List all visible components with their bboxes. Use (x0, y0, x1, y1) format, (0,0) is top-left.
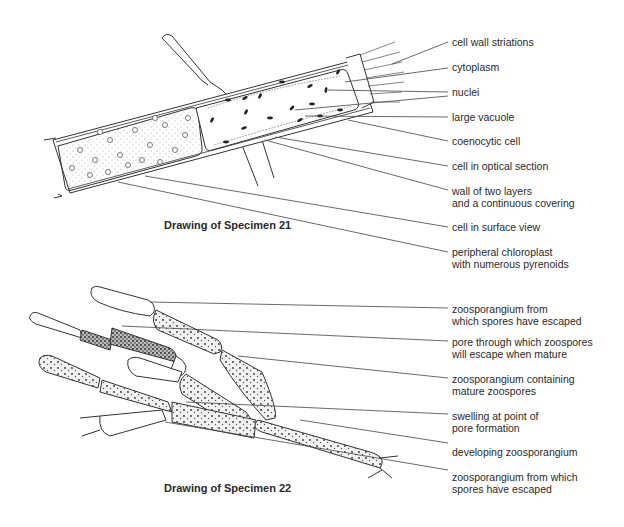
label-wall-of-two-layers: wall of two layers and a continuous cove… (452, 185, 575, 209)
label-text: nuclei (452, 86, 479, 98)
label-developing-zoosporangium: developing zoosporangium (452, 446, 578, 458)
label-text: zoosporangium from which (452, 471, 577, 483)
label-zoosporangium-mature: zoosporangium containing mature zoospore… (452, 373, 575, 397)
label-large-vacuole: large vacuole (452, 111, 514, 123)
label-text: will escape when mature (452, 348, 593, 360)
label-zoosporangium-escaped-bottom: zoosporangium from which spores have esc… (452, 471, 577, 495)
label-text: coenocytic cell (452, 135, 520, 147)
label-text: and a continuous covering (452, 197, 575, 209)
label-text: cell in optical section (452, 160, 548, 172)
label-cytoplasm: cytoplasm (452, 61, 499, 73)
label-text: wall of two layers (452, 185, 575, 197)
label-zoosporangium-escaped-top: zoosporangium from which spores have esc… (452, 303, 582, 327)
label-pore-zoospores: pore through which zoospores will escape… (452, 336, 593, 360)
label-peripheral-chloroplast: peripheral chloroplast with numerous pyr… (452, 246, 569, 270)
label-text: cytoplasm (452, 61, 499, 73)
label-text: pore through which zoospores (452, 336, 593, 348)
label-text: which spores have escaped (452, 315, 582, 327)
specimen-22-drawing (30, 286, 398, 478)
label-text: with numerous pyrenoids (452, 258, 569, 270)
label-text: developing zoosporangium (452, 446, 578, 458)
label-coenocytic-cell: coenocytic cell (452, 135, 520, 147)
label-swelling-pore-formation: swelling at point of pore formation (452, 410, 538, 434)
specimen-21-caption: Drawing of Specimen 21 (164, 219, 291, 231)
label-cell-wall-striations: cell wall striations (452, 36, 534, 48)
label-text: zoosporangium containing (452, 373, 575, 385)
label-text: spores have escaped (452, 483, 577, 495)
label-text: cell wall striations (452, 36, 534, 48)
specimen-22-caption: Drawing of Specimen 22 (164, 482, 291, 494)
label-text: large vacuole (452, 111, 514, 123)
label-cell-in-surface-view: cell in surface view (452, 221, 540, 233)
label-text: mature zoospores (452, 385, 575, 397)
label-cell-in-optical-section: cell in optical section (452, 160, 548, 172)
label-text: peripheral chloroplast (452, 246, 569, 258)
label-text: swelling at point of (452, 410, 538, 422)
label-nuclei: nuclei (452, 86, 479, 98)
label-text: cell in surface view (452, 221, 540, 233)
label-text: pore formation (452, 422, 538, 434)
label-text: zoosporangium from (452, 303, 582, 315)
